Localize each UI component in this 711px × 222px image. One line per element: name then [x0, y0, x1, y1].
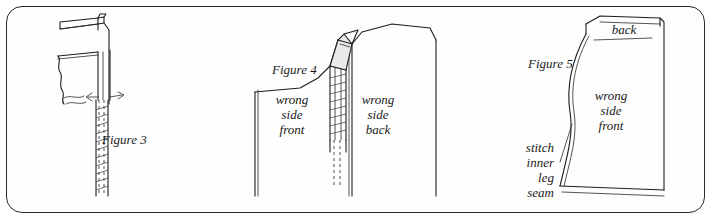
figure-5-label-stitch-line1: stitch — [500, 140, 554, 155]
figure-4-label-back-line2: side — [356, 107, 400, 122]
figure-5-caption: Figure 5 — [528, 56, 573, 71]
figure-4-label-wrong-line1: wrong — [270, 92, 314, 107]
figure-5-label-back: back — [598, 22, 650, 37]
figure-5-label-stitch-line2: inner — [500, 155, 554, 170]
figure-5-label-stitch-line3: leg — [500, 170, 554, 185]
diagram-page: Figure 3 Figure 4 wrong side front wrong… — [0, 0, 711, 222]
figure-4-label-back-line1: wrong — [356, 92, 400, 107]
figure-4-label-wrong-line2: side — [270, 107, 314, 122]
figure-5-label-wrong-line1: wrong — [588, 88, 634, 103]
figure-4-label-wrong-line3: front — [270, 122, 314, 137]
figure-5-label-wrong-line3: front — [588, 118, 634, 133]
figure-3-caption: Figure 3 — [102, 132, 147, 147]
figure-4-caption: Figure 4 — [272, 62, 317, 77]
figure-4-label-back-line3: back — [356, 122, 400, 137]
figure-3-artwork — [58, 14, 124, 196]
figure-5-label-wrong-line2: side — [588, 103, 634, 118]
figure-5-label-stitch-line4: seam — [500, 185, 554, 200]
